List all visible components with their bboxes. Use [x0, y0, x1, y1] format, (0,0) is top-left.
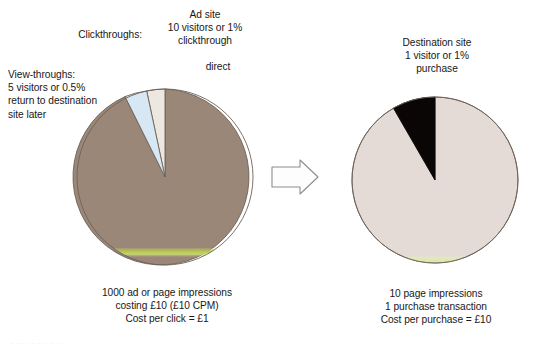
right-caption-cost-per-purchase: Cost per purchase = £10 [340, 313, 532, 326]
ad-site-label: Ad site 10 visitors or 1% clickthrough [144, 8, 266, 48]
left-caption-cost-per-click: Cost per click = £1 [52, 312, 282, 325]
left-pie-highlighter-mark [60, 248, 272, 257]
right-caption-impressions-transaction: 10 page impressions 1 purchase transacti… [340, 287, 532, 313]
right-arrow-icon [272, 160, 318, 194]
left-caption-impressions-cost: 1000 ad or page impressions costing £10 … [52, 286, 282, 312]
right-pie-highlighter-mark [340, 256, 530, 265]
right-pie-chart [340, 97, 530, 265]
scan-edge-artifact: .. ... . .. .. . .. . . [10, 337, 310, 346]
direct-label: direct [178, 60, 258, 73]
clickthroughs-label: Clickthroughs: [36, 28, 142, 41]
advertising-funnel-figure: Clickthroughs: Ad site 10 visitors or 1%… [0, 0, 548, 346]
destination-site-label: Destination site 1 visitor or 1% purchas… [372, 36, 502, 76]
view-throughs-label: View-throughs: 5 visitors or 0.5% return… [8, 68, 140, 121]
